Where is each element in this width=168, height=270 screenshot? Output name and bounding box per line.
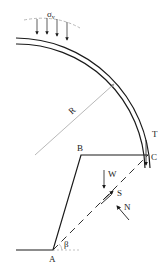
diagram-canvas: σv R T β A B C W S N bbox=[0, 0, 168, 270]
shear-arrow-line bbox=[101, 195, 111, 204]
radius-label: R bbox=[66, 105, 77, 116]
vertical-stress-load: σv bbox=[24, 9, 80, 40]
weight-label: W bbox=[108, 169, 117, 179]
beta-label: β bbox=[64, 239, 69, 249]
point-a-label: A bbox=[49, 254, 56, 264]
radius-dimension: R bbox=[35, 84, 114, 155]
angle-arc bbox=[59, 244, 62, 250]
point-c-label: C bbox=[151, 152, 157, 162]
point-b-label: B bbox=[77, 143, 83, 153]
normal-label: N bbox=[124, 202, 131, 212]
shear-label: S bbox=[117, 188, 122, 198]
tension-label: T bbox=[152, 129, 158, 139]
shear-arrow bbox=[103, 191, 113, 200]
sigma-v-label: σv bbox=[47, 9, 55, 20]
